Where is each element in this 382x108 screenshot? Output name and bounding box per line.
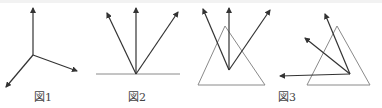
cropped-text-strip (0, 0, 382, 3)
vector-arrow-3 (6, 55, 33, 87)
vector-arrow-1 (107, 13, 136, 74)
figure-1 (6, 8, 77, 87)
figure-3b (280, 14, 370, 85)
figure-canvas: 図1 図2 図3 (0, 0, 382, 108)
vector-arrow-3 (229, 10, 270, 70)
vector-arrow-1 (203, 9, 229, 70)
triangle-outline (307, 26, 370, 85)
figure-2-label: 図2 (128, 91, 146, 104)
vector-arrow-2 (305, 38, 350, 74)
triangle-outline (198, 26, 265, 85)
vector-arrow-3 (136, 12, 178, 74)
vector-arrow-2 (33, 55, 77, 71)
figure-2 (96, 8, 180, 74)
vector-arrow-1 (325, 14, 350, 74)
figure-3a (198, 8, 270, 85)
vector-arrow-3 (280, 74, 350, 76)
figure-3-label: 図3 (278, 91, 296, 104)
figure-1-label: 図1 (34, 91, 52, 104)
